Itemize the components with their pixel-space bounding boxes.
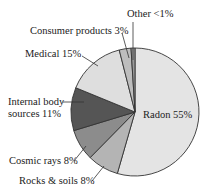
- label-medical: Medical 15%: [25, 48, 81, 60]
- label-internal-body-line1: Internal body: [8, 96, 64, 108]
- label-cosmic-rays: Cosmic rays 8%: [9, 155, 78, 167]
- label-consumer-products: Consumer products 3%: [30, 25, 129, 37]
- label-rocks-soils: Rocks & soils 8%: [19, 175, 95, 187]
- label-radon: Radon 55%: [143, 109, 192, 121]
- label-other: Other <1%: [127, 8, 173, 20]
- label-internal-body-line2: sources 11%: [8, 108, 61, 120]
